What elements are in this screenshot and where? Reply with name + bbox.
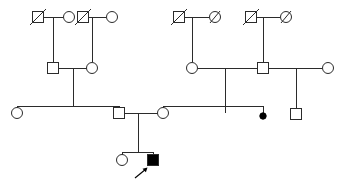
pregnancy-loss-dot-affected[interactable] <box>260 113 266 119</box>
female-circle[interactable] <box>117 155 128 166</box>
proband-arrow-icon <box>135 168 148 179</box>
node-II-4[interactable] <box>258 63 269 74</box>
node-II-5[interactable] <box>323 63 334 74</box>
union-lines-gen3 <box>125 113 158 152</box>
pedigree-chart <box>0 0 343 183</box>
female-circle[interactable] <box>87 63 98 74</box>
male-square-affected-proband[interactable] <box>148 155 159 166</box>
pedigree-canvas <box>0 0 343 183</box>
node-I-7[interactable] <box>243 9 259 25</box>
female-circle[interactable] <box>187 63 198 74</box>
female-circle[interactable] <box>12 108 23 119</box>
node-IV-1[interactable] <box>117 155 128 166</box>
node-III-1[interactable] <box>12 108 23 119</box>
male-square[interactable] <box>291 109 302 120</box>
female-circle[interactable] <box>323 63 334 74</box>
node-II-1[interactable] <box>48 63 59 74</box>
node-II-3[interactable] <box>187 63 198 74</box>
node-IV-2[interactable] <box>148 155 159 166</box>
node-I-3[interactable] <box>75 9 91 25</box>
sibship-bars-gen3 <box>17 106 263 113</box>
male-square[interactable] <box>48 63 59 74</box>
union-lines-gen1-right <box>185 17 280 62</box>
female-circle[interactable] <box>64 12 75 23</box>
node-I-2[interactable] <box>64 12 75 23</box>
male-square[interactable] <box>258 63 269 74</box>
node-I-6[interactable] <box>210 11 221 23</box>
female-circle[interactable] <box>107 12 118 23</box>
node-III-5[interactable] <box>291 109 302 120</box>
node-III-4[interactable] <box>260 113 266 119</box>
union-lines-gen1-left <box>44 17 106 62</box>
node-I-1[interactable] <box>30 9 46 25</box>
node-I-5[interactable] <box>171 9 187 25</box>
node-I-4[interactable] <box>107 12 118 23</box>
female-circle[interactable] <box>158 108 169 119</box>
node-II-2[interactable] <box>87 63 98 74</box>
node-I-8[interactable] <box>281 11 292 23</box>
male-square[interactable] <box>114 108 125 119</box>
node-III-2[interactable] <box>114 108 125 119</box>
node-III-3[interactable] <box>158 108 169 119</box>
